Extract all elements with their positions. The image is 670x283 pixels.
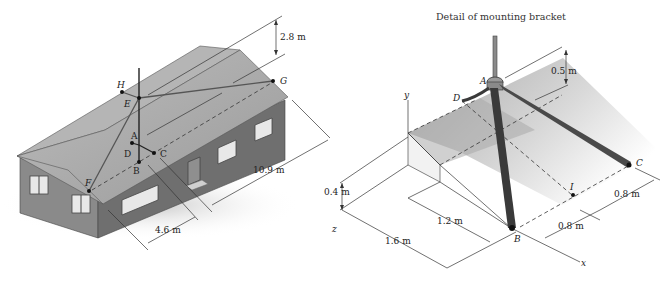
label-B: B [133, 166, 140, 176]
label-D: D [124, 149, 131, 159]
axis-z-label: z [331, 224, 337, 234]
label-I: I [569, 182, 574, 192]
dim-offset: 4.6 m [155, 225, 181, 235]
axis-y-label: y [403, 90, 410, 100]
dim-B-to-I: 0.8 m [558, 221, 584, 231]
label-B: B [513, 234, 521, 244]
dim-height-above: 2.8 m [280, 32, 306, 42]
label-H: H [116, 80, 125, 90]
dim-inner-width: 1.2 m [437, 216, 463, 226]
bracket-mast [493, 36, 497, 81]
label-C: C [636, 158, 643, 168]
window-icon [30, 176, 48, 194]
dim-roof-rise: 0.4 m [324, 187, 350, 197]
house-illustration [0, 16, 330, 250]
window-icon [72, 195, 90, 213]
label-D: D [452, 93, 460, 103]
dim-height-A: 0.5 m [551, 66, 577, 76]
dim-length: 10.9 m [253, 165, 285, 175]
label-A: A [130, 131, 138, 141]
figure-canvas: H E G F A D C B 2.8 m 10.9 m 4.6 m [0, 0, 670, 283]
dim-total-width: 1.6 m [385, 236, 411, 246]
label-A: A [479, 76, 487, 86]
dim-I-to-C: 0.8 m [614, 189, 640, 199]
axis-x-label: x [581, 258, 586, 268]
detail-title: Detail of mounting bracket [436, 11, 566, 22]
label-C: C [160, 149, 167, 159]
bracket-illustration [340, 36, 660, 268]
x-axis [511, 228, 580, 262]
z-axis [340, 165, 408, 210]
label-E: E [123, 99, 131, 109]
door [188, 157, 200, 185]
label-G: G [280, 76, 287, 86]
label-F: F [84, 178, 92, 188]
